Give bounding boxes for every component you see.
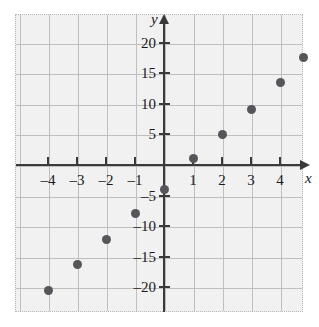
y-axis-tick (159, 133, 170, 135)
y-axis-tick-label: –15 (122, 250, 156, 265)
data-point (276, 78, 285, 87)
x-axis-tick (76, 157, 78, 166)
gridline-vertical (194, 15, 195, 311)
x-axis-tick-label: –4 (33, 173, 63, 188)
x-axis-label: x (305, 171, 312, 186)
y-axis-tick (159, 72, 170, 74)
y-axis-tick-label: 15 (122, 66, 156, 81)
x-axis-arrowhead (300, 160, 310, 170)
y-axis-tick (159, 286, 170, 288)
data-point (160, 185, 169, 194)
data-point (247, 105, 256, 114)
x-axis-tick (221, 157, 223, 166)
x-axis-tick-label: –3 (62, 173, 92, 188)
gridline-horizontal (16, 197, 302, 198)
data-point (73, 260, 82, 269)
scatter-plot-figure: –4–3–2–112342015105–5–10–15–20xy (0, 0, 319, 327)
x-axis-tick-label: –1 (120, 173, 150, 188)
y-axis-tick-label: 10 (122, 97, 156, 112)
y-axis-tick-label: 20 (122, 36, 156, 51)
y-axis-arrowhead (159, 14, 169, 24)
y-axis-tick-label: 5 (122, 127, 156, 142)
gridline-horizontal (16, 135, 302, 136)
data-point (44, 286, 53, 295)
gridline-horizontal (16, 227, 302, 228)
x-axis-tick-label: 2 (207, 173, 237, 188)
data-point (102, 235, 111, 244)
y-axis-tick (159, 256, 170, 258)
y-axis-tick-label: –20 (122, 280, 156, 295)
x-axis-tick (105, 157, 107, 166)
data-point (299, 53, 308, 62)
y-axis-tick (159, 42, 170, 44)
x-axis-tick-label: 4 (265, 173, 295, 188)
plot-area (15, 14, 303, 312)
x-axis-tick (134, 157, 136, 166)
gridline-vertical (20, 15, 21, 311)
x-axis-tick-label: 3 (236, 173, 266, 188)
y-axis-tick-label: –10 (122, 219, 156, 234)
gridline-horizontal (16, 105, 302, 106)
gridline-vertical (136, 15, 137, 311)
gridline-horizontal (16, 44, 302, 45)
gridline-horizontal (16, 258, 302, 259)
x-axis-tick-label: 1 (178, 173, 208, 188)
gridline-vertical (107, 15, 108, 311)
data-point (218, 130, 227, 139)
y-axis-tick (159, 225, 170, 227)
x-axis-tick-label: –2 (91, 173, 121, 188)
y-axis-label: y (151, 12, 158, 27)
y-axis-tick (159, 103, 170, 105)
data-point (131, 209, 140, 218)
gridline-vertical (223, 15, 224, 311)
gridline-vertical (252, 15, 253, 311)
data-point (189, 154, 198, 163)
y-axis-line (163, 22, 165, 312)
x-axis-tick (47, 157, 49, 166)
gridline-vertical (281, 15, 282, 311)
gridline-horizontal (16, 288, 302, 289)
x-axis-tick (250, 157, 252, 166)
x-axis-tick (279, 157, 281, 166)
gridline-vertical (165, 15, 166, 311)
gridline-horizontal (16, 74, 302, 75)
x-axis-line (16, 164, 302, 166)
gridline-horizontal (16, 166, 302, 167)
y-axis-tick (159, 195, 170, 197)
y-axis-tick-label: –5 (122, 189, 156, 204)
gridline-vertical (49, 15, 50, 311)
